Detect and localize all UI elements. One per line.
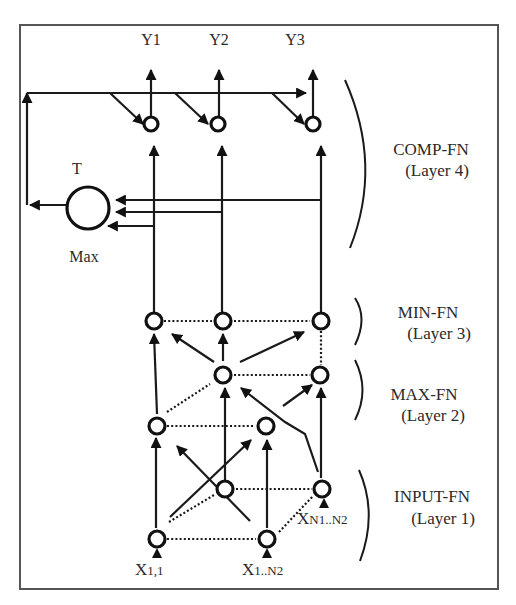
layer1-node-1 <box>149 418 165 434</box>
layer1-node-3 <box>217 481 233 497</box>
comparator-threshold-label: T <box>72 160 82 177</box>
layer3-sub: (Layer 3) <box>407 324 471 343</box>
layer3-name: MIN-FN <box>398 303 458 322</box>
layer2-node-2 <box>312 367 328 383</box>
layer4-bracket <box>345 80 365 248</box>
layer4-node-2 <box>211 117 225 131</box>
layer3-to-layer4-links <box>154 146 321 312</box>
layer2-bracket <box>355 360 363 420</box>
layer1-node-4 <box>314 481 330 497</box>
output-label-y2: Y2 <box>209 31 229 48</box>
max-comparator-node <box>67 187 109 229</box>
layer1-sub: (Layer 1) <box>411 509 475 528</box>
comparator-max-label: Max <box>69 248 98 265</box>
layer2-nodes <box>215 367 328 383</box>
input-label-xn1n2: XN1..N2 <box>297 509 348 528</box>
layer4-node-1 <box>144 117 158 131</box>
layer1-name: INPUT-FN <box>394 487 470 506</box>
layer2-node-1 <box>215 367 231 383</box>
threshold-feedback-loop <box>27 93 306 205</box>
layer3-node-2 <box>215 313 231 329</box>
input-label-x11: X1,1 <box>135 560 164 579</box>
neural-network-diagram: Y1 Y2 Y3 T Max <box>0 0 516 605</box>
layer4-node-3 <box>306 117 320 131</box>
layer2-sub: (Layer 2) <box>401 406 465 425</box>
layer4-sub: (Layer 4) <box>405 161 469 180</box>
input-label-x1n2: X1..N2 <box>242 560 283 579</box>
layer3-bracket <box>355 298 362 345</box>
layer1-node-6 <box>259 531 275 547</box>
layer1-bracket <box>359 470 369 561</box>
output-label-y1: Y1 <box>141 31 161 48</box>
layer1-node-2 <box>258 418 274 434</box>
layer4-name: COMP-FN <box>393 140 469 159</box>
output-label-y3: Y3 <box>285 31 305 48</box>
layer3-node-3 <box>313 313 329 329</box>
max-comparator-inputs <box>108 200 321 226</box>
layer2-to-layer3-links <box>154 321 321 414</box>
layer3-node-1 <box>146 313 162 329</box>
layer2-name: MAX-FN <box>390 385 457 404</box>
layer4-nodes <box>144 117 320 131</box>
layer1-node-5 <box>149 531 165 547</box>
